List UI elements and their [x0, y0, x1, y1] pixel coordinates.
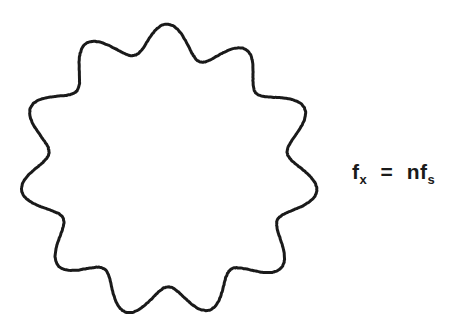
figure-canvas: fx = nfs	[0, 0, 461, 332]
equation-left-term: fx	[352, 161, 367, 182]
equation-right-base: f	[420, 160, 428, 183]
equation-operator: =	[381, 161, 394, 182]
equation-left-base: f	[352, 160, 360, 183]
equation-right-term: nfs	[407, 161, 436, 182]
equation-right-subscript: s	[428, 172, 436, 187]
equation-label: fx = nfs	[352, 161, 435, 182]
equation-left-subscript: x	[360, 172, 368, 187]
equation-right-coefficient: n	[407, 160, 420, 183]
